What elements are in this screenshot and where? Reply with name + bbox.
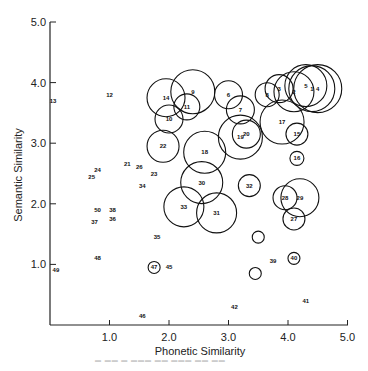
- point-label: 47: [151, 264, 158, 270]
- data-point: 18: [184, 131, 226, 173]
- point-label: 13: [50, 98, 57, 104]
- point-label: 48: [94, 255, 101, 261]
- x-tick-label: 4.0: [280, 331, 295, 343]
- y-axis-title: Semantic Similarity: [12, 128, 24, 222]
- data-point: 36: [109, 216, 116, 222]
- data-point: 16: [290, 151, 304, 165]
- data-point: 25: [88, 174, 95, 180]
- data-point: 47: [148, 261, 160, 273]
- point-label: 40: [291, 255, 298, 261]
- x-axis-title: Phonetic Similarity: [155, 345, 246, 357]
- y-tick-label: 4.0: [31, 77, 46, 89]
- point-label: 8: [266, 92, 270, 98]
- point-label: 35: [154, 234, 161, 240]
- data-point: 15: [286, 123, 308, 145]
- data-point: 8: [255, 83, 279, 107]
- point-label: 31: [213, 210, 220, 216]
- data-point: 12: [106, 92, 113, 98]
- y-tick-label: 1.0: [31, 258, 46, 270]
- y-ticks: 1.02.03.04.05.0: [31, 16, 56, 270]
- point-label: 28: [282, 195, 289, 201]
- data-point: 7: [226, 96, 254, 124]
- point-label: 32: [246, 183, 253, 189]
- data-point: 32: [238, 175, 260, 197]
- data-point: 22: [147, 130, 179, 162]
- point-label: 5: [304, 83, 308, 89]
- x-tick-label: 5.0: [340, 331, 355, 343]
- data-points: 1234567891011121314151617181920212223242…: [50, 65, 342, 319]
- data-point: 24: [94, 167, 101, 173]
- y-tick-label: 2.0: [31, 198, 46, 210]
- point-label: 22: [160, 143, 167, 149]
- data-point: 50: [94, 207, 101, 213]
- data-point: 34: [139, 183, 146, 189]
- point-label: 20: [243, 131, 250, 137]
- data-point: 23: [151, 171, 158, 177]
- data-point: 49: [53, 267, 60, 273]
- bubble-circle: [249, 267, 261, 279]
- scatter-chart: 1.02.03.04.05.0 1.02.03.04.05.0 Phonetic…: [0, 0, 368, 371]
- y-tick-label: 3.0: [31, 137, 46, 149]
- point-label: 11: [184, 104, 191, 110]
- point-label: 14: [163, 95, 170, 101]
- point-label: 6: [227, 92, 231, 98]
- point-label: 23: [151, 171, 158, 177]
- data-point: 5: [285, 65, 327, 107]
- x-tick-label: 1.0: [102, 331, 117, 343]
- x-ticks: 1.02.03.04.05.0: [102, 320, 355, 343]
- point-label: 41: [303, 298, 310, 304]
- data-point: 41: [303, 298, 310, 304]
- point-label: 29: [297, 195, 304, 201]
- point-label: 21: [124, 161, 131, 167]
- data-point: 40: [288, 252, 300, 264]
- bubble-circle: [252, 231, 264, 243]
- x-tick-label: 2.0: [161, 331, 176, 343]
- point-label: 50: [94, 207, 101, 213]
- data-point: 37: [91, 219, 98, 225]
- point-label: 34: [139, 183, 146, 189]
- point-label: 33: [181, 204, 188, 210]
- point-label: 37: [91, 219, 98, 225]
- data-point: 45: [166, 264, 173, 270]
- point-label: 25: [88, 174, 95, 180]
- point-label: 36: [109, 216, 116, 222]
- point-label: 9: [191, 89, 195, 95]
- data-point: 11: [174, 94, 200, 120]
- point-label: 18: [201, 149, 208, 155]
- data-point: 48: [94, 255, 101, 261]
- point-label: 49: [53, 267, 60, 273]
- data-point: 26: [136, 164, 143, 170]
- point-label: 39: [270, 258, 277, 264]
- point-label: 16: [294, 155, 301, 161]
- y-tick-label: 5.0: [31, 16, 46, 28]
- point-label: 46: [139, 313, 146, 319]
- data-point: 6: [215, 81, 243, 109]
- data-point: 21: [124, 161, 131, 167]
- data-point: 17: [260, 100, 304, 144]
- data-point: 10: [155, 105, 183, 133]
- point-label: 26: [136, 164, 143, 170]
- data-point: [249, 267, 261, 279]
- point-label: 12: [106, 92, 113, 98]
- data-point: 46: [139, 313, 146, 319]
- data-point: 39: [270, 258, 277, 264]
- figure-caption-blurred: ▬ ▬▬ ▬ ▬▬▬ ▬▬ ▬▬▬ ▬▬ ▬▬: [95, 357, 325, 363]
- data-point: 14: [147, 79, 185, 117]
- point-label: 17: [279, 119, 286, 125]
- data-point: [252, 231, 264, 243]
- point-label: 45: [166, 264, 173, 270]
- point-label: 42: [231, 304, 238, 310]
- x-tick-label: 3.0: [221, 331, 236, 343]
- point-label: 30: [198, 180, 205, 186]
- data-point: 28: [273, 186, 297, 210]
- point-label: 38: [109, 207, 116, 213]
- point-label: 7: [239, 107, 243, 113]
- data-point: 38: [109, 207, 116, 213]
- data-point: 35: [154, 234, 161, 240]
- data-point: 13: [50, 98, 57, 104]
- point-label: 4: [316, 86, 320, 92]
- point-label: 24: [94, 167, 101, 173]
- data-point: 42: [231, 304, 238, 310]
